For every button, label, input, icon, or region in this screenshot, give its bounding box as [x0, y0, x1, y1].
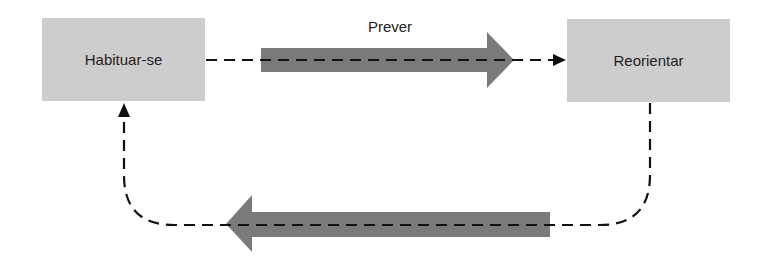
node-label: Habituar-se — [85, 51, 163, 68]
node-label: Reorientar — [613, 52, 683, 69]
node-reorientar: Reorientar — [567, 19, 730, 102]
node-habituar-se: Habituar-se — [42, 18, 205, 101]
cycle-diagram: Habituar-se Reorientar Prever — [0, 0, 767, 275]
return-arrowhead-icon — [118, 103, 130, 117]
return-dashed-path — [124, 103, 650, 225]
backward-arrow-shape — [226, 195, 550, 252]
edge-label-prever: Prever — [340, 18, 440, 35]
top-arrowhead-icon — [553, 54, 566, 66]
